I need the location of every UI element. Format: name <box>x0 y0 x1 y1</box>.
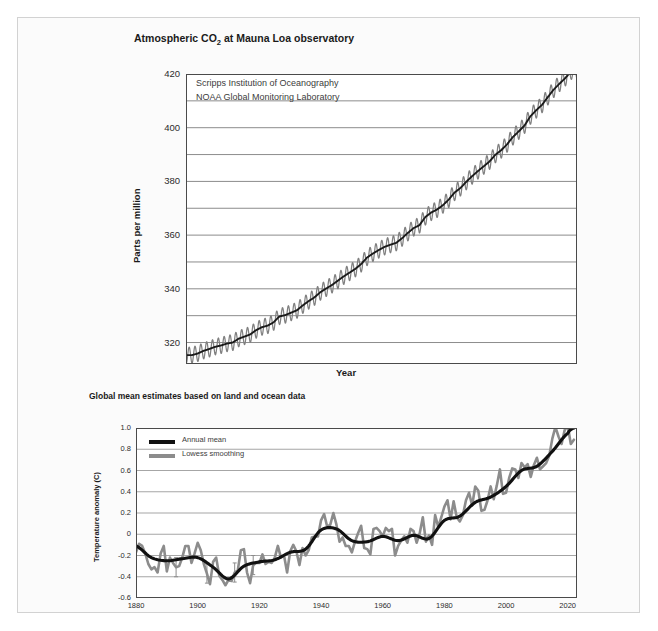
temperature-y-axis-label: Temperature anomaly (C) <box>92 472 101 562</box>
co2-y-tick: 420 <box>146 68 180 79</box>
temperature-y-tick: -0.4 <box>102 572 131 581</box>
temperature-x-tick: 2000 <box>486 601 526 610</box>
temperature-y-tick: 0.2 <box>102 508 131 517</box>
temperature-legend-label: Annual mean <box>182 435 226 444</box>
temperature-x-tick: 1880 <box>116 601 156 610</box>
co2-y-axis-label: Parts per million <box>131 189 142 263</box>
co2-y-tick: 320 <box>146 337 180 348</box>
co2-y-tick: 400 <box>146 122 180 133</box>
co2-annotation-line: NOAA Global Monitoring Laboratory <box>196 92 340 102</box>
temperature-x-tick: 1920 <box>239 601 279 610</box>
temperature-y-tick: 0.8 <box>102 444 131 453</box>
co2-y-tick: 360 <box>146 229 180 240</box>
temperature-y-tick: 0.4 <box>102 487 131 496</box>
figure-frame: Atmospheric CO2 at Mauna Loa observatory… <box>17 17 640 613</box>
co2-title-text: Atmospheric CO <box>134 32 217 44</box>
temperature-x-tick: 1940 <box>301 601 341 610</box>
co2-chart-panel: Atmospheric CO2 at Mauna Loa observatory… <box>18 18 641 388</box>
temperature-y-tick: -0.2 <box>102 551 131 560</box>
temperature-legend-swatch <box>149 454 175 458</box>
temperature-x-tick: 1960 <box>363 601 403 610</box>
co2-y-tick: 380 <box>146 175 180 186</box>
temperature-y-tick: 0.6 <box>102 466 131 475</box>
co2-title-text-2: at Mauna Loa observatory <box>221 32 354 44</box>
temperature-x-tick: 2020 <box>548 601 588 610</box>
temperature-chart-panel: Global mean estimates based on land and … <box>18 388 641 614</box>
temperature-x-tick: 1980 <box>424 601 464 610</box>
temperature-y-tick: 0 <box>102 529 131 538</box>
co2-y-tick: 340 <box>146 283 180 294</box>
temperature-legend-label: Lowess smoothing <box>182 449 244 458</box>
temperature-y-tick: 1.0 <box>102 423 131 432</box>
temperature-legend-swatch <box>149 440 175 444</box>
temperature-chart-title: Global mean estimates based on land and … <box>89 391 305 401</box>
co2-plot-area <box>186 74 577 364</box>
temperature-x-tick: 1900 <box>178 601 218 610</box>
co2-annotation-line: Scripps Institution of Oceanography <box>196 78 339 88</box>
co2-chart-title: Atmospheric CO2 at Mauna Loa observatory <box>134 32 354 47</box>
co2-x-axis-label: Year <box>336 367 356 378</box>
